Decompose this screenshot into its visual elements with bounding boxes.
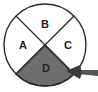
quadrant-label-b: B [41,18,49,30]
quadrant-label-a: A [19,39,27,51]
quadrant-label-c: C [64,39,72,51]
quadrant-circle-diagram: B A C D [0,0,98,92]
quadrant-label-d: D [42,62,50,74]
